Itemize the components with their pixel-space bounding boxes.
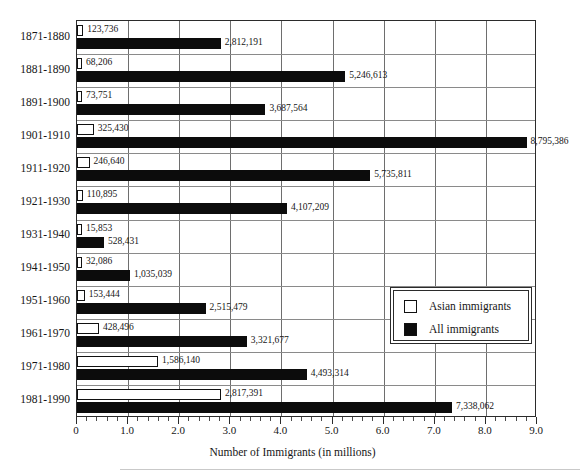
x-tick-minor bbox=[495, 417, 496, 421]
y-axis-label-1931-1940: 1931-1940 bbox=[0, 228, 70, 241]
bar-asian-immigrants bbox=[77, 157, 90, 168]
bar-row: 73,7513,687,564 bbox=[77, 87, 535, 120]
legend-item-asian-immigrants: Asian immigrants bbox=[404, 299, 511, 313]
x-tick-label: 5.0 bbox=[325, 424, 339, 437]
x-tick-minor bbox=[444, 417, 445, 421]
x-tick-minor bbox=[188, 417, 189, 421]
x-tick-label: 1.0 bbox=[120, 424, 134, 437]
x-axis-ticks bbox=[76, 417, 536, 425]
bar-value-label-all: 1,035,039 bbox=[134, 269, 172, 280]
x-tick-label: 6.0 bbox=[376, 424, 390, 437]
x-tick-label: 0 bbox=[73, 424, 79, 437]
x-tick-minor bbox=[413, 417, 414, 421]
bar-value-label-asian: 1,586,140 bbox=[162, 355, 200, 366]
x-tick-minor bbox=[199, 417, 200, 421]
bar-value-label-all: 8,795,386 bbox=[531, 136, 569, 147]
bar-asian-immigrants bbox=[77, 124, 94, 135]
x-tick-minor bbox=[362, 417, 363, 421]
x-tick-minor bbox=[270, 417, 271, 421]
bar-all-immigrants bbox=[77, 170, 370, 181]
x-tick-minor bbox=[137, 417, 138, 421]
x-tick-minor bbox=[372, 417, 373, 421]
x-tick-major bbox=[383, 417, 384, 424]
bar-value-label-all: 2,812,191 bbox=[225, 37, 263, 48]
y-axis-label-1961-1970: 1961-1970 bbox=[0, 327, 70, 340]
bar-value-label-asian: 32,086 bbox=[86, 256, 112, 267]
bar-value-label-asian: 428,496 bbox=[103, 322, 134, 333]
x-tick-minor bbox=[260, 417, 261, 421]
bar-value-label-asian: 246,640 bbox=[94, 156, 125, 167]
x-tick-major bbox=[485, 417, 486, 424]
x-tick-minor bbox=[148, 417, 149, 421]
bar-row: 15,853528,431 bbox=[77, 220, 535, 253]
legend-swatch-asian-icon bbox=[404, 300, 417, 313]
x-tick-label: 2.0 bbox=[171, 424, 185, 437]
x-tick-minor bbox=[117, 417, 118, 421]
bar-value-label-all: 4,493,314 bbox=[311, 368, 349, 379]
bar-all-immigrants bbox=[77, 402, 452, 413]
legend-item-all-immigrants: All immigrants bbox=[404, 322, 499, 336]
y-axis-label-1891-1900: 1891-1900 bbox=[0, 96, 70, 109]
x-tick-minor bbox=[107, 417, 108, 421]
y-axis-label-1881-1890: 1881-1890 bbox=[0, 63, 70, 76]
x-tick-minor bbox=[505, 417, 506, 421]
page-rule bbox=[120, 469, 580, 470]
x-tick-minor bbox=[403, 417, 404, 421]
legend-inner-border: Asian immigrants All immigrants bbox=[393, 290, 529, 341]
bar-asian-immigrants bbox=[77, 190, 83, 201]
x-tick-major bbox=[76, 417, 77, 424]
x-tick-minor bbox=[168, 417, 169, 421]
bar-all-immigrants bbox=[77, 38, 221, 49]
x-tick-label: 7.0 bbox=[427, 424, 441, 437]
bar-value-label-asian: 123,736 bbox=[87, 24, 118, 35]
x-tick-major bbox=[332, 417, 333, 424]
bar-all-immigrants bbox=[77, 104, 265, 115]
bar-value-label-asian: 73,751 bbox=[86, 90, 112, 101]
bar-value-label-all: 5,246,613 bbox=[349, 70, 387, 81]
bar-asian-immigrants bbox=[77, 224, 82, 235]
bar-asian-immigrants bbox=[77, 257, 82, 268]
y-axis-label-1941-1950: 1941-1950 bbox=[0, 261, 70, 274]
bar-asian-immigrants bbox=[77, 290, 85, 301]
x-tick-minor bbox=[352, 417, 353, 421]
bar-all-immigrants bbox=[77, 303, 206, 314]
x-tick-major bbox=[178, 417, 179, 424]
bar-all-immigrants bbox=[77, 137, 527, 148]
x-tick-minor bbox=[424, 417, 425, 421]
x-tick-minor bbox=[516, 417, 517, 421]
bar-row: 123,7362,812,191 bbox=[77, 21, 535, 54]
legend-label-all: All immigrants bbox=[429, 323, 499, 335]
x-tick-minor bbox=[321, 417, 322, 421]
bar-asian-immigrants bbox=[77, 58, 82, 69]
x-tick-minor bbox=[464, 417, 465, 421]
x-tick-minor bbox=[158, 417, 159, 421]
bar-asian-immigrants bbox=[77, 25, 83, 36]
x-tick-major bbox=[434, 417, 435, 424]
x-tick-major bbox=[536, 417, 537, 424]
legend-label-asian: Asian immigrants bbox=[429, 300, 511, 312]
x-tick-label: 3.0 bbox=[222, 424, 236, 437]
plot-area: 123,7362,812,19168,2065,246,61373,7513,6… bbox=[76, 20, 536, 417]
bar-row: 1,586,1404,493,314 bbox=[77, 352, 535, 385]
bar-value-label-all: 3,321,677 bbox=[251, 335, 289, 346]
bar-value-label-asian: 15,853 bbox=[86, 223, 112, 234]
x-tick-minor bbox=[209, 417, 210, 421]
bar-row: 32,0861,035,039 bbox=[77, 253, 535, 286]
bar-row: 2,817,3917,338,062 bbox=[77, 385, 535, 418]
chart-legend: Asian immigrants All immigrants bbox=[390, 287, 532, 344]
x-tick-minor bbox=[475, 417, 476, 421]
bar-all-immigrants bbox=[77, 369, 307, 380]
bar-value-label-asian: 325,430 bbox=[98, 123, 129, 134]
y-axis-label-1951-1960: 1951-1960 bbox=[0, 294, 70, 307]
y-axis-label-1981-1990: 1981-1990 bbox=[0, 393, 70, 406]
bar-value-label-asian: 2,817,391 bbox=[225, 388, 263, 399]
bar-value-label-asian: 110,895 bbox=[87, 189, 118, 200]
x-axis-title: Number of Immigrants (in millions) bbox=[0, 446, 585, 458]
x-tick-label: 4.0 bbox=[274, 424, 288, 437]
x-tick-minor bbox=[291, 417, 292, 421]
bar-asian-immigrants bbox=[77, 91, 82, 102]
immigration-bar-chart: 123,7362,812,19168,2065,246,61373,7513,6… bbox=[0, 0, 585, 473]
x-tick-major bbox=[127, 417, 128, 424]
y-axis-label-1871-1880: 1871-1880 bbox=[0, 30, 70, 43]
bar-row: 325,4308,795,386 bbox=[77, 120, 535, 153]
